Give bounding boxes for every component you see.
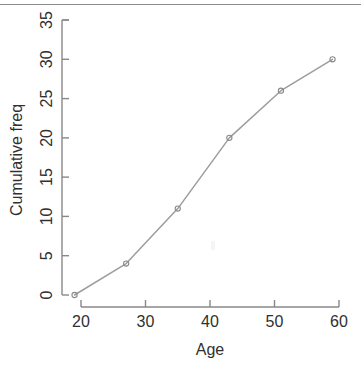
y-tick-label: 5 — [38, 251, 55, 260]
y-tick-label: 0 — [38, 290, 55, 299]
chart-page: 0 5 10 15 20 25 30 35 Cumulative freq 20… — [0, 0, 361, 374]
x-tick-label: 40 — [201, 313, 219, 330]
y-tick-label: 25 — [38, 90, 55, 108]
y-tick-label: 15 — [38, 168, 55, 186]
y-tick-labels: 0 5 10 15 20 25 30 35 — [38, 11, 55, 299]
series-markers — [72, 57, 335, 298]
x-tick-label: 60 — [330, 313, 348, 330]
cumulative-frequency-chart: 0 5 10 15 20 25 30 35 Cumulative freq 20… — [0, 0, 361, 374]
x-tick-label: 50 — [266, 313, 284, 330]
y-tick-label: 10 — [38, 207, 55, 225]
y-tick-label: 30 — [38, 50, 55, 68]
y-tick-label: 20 — [38, 129, 55, 147]
x-axis — [81, 300, 339, 307]
x-axis-title: Age — [196, 341, 225, 358]
y-axis-title: Cumulative freq — [8, 104, 25, 216]
x-tick-label: 30 — [137, 313, 155, 330]
page-bottom-text-fragment — [6, 367, 236, 374]
series-line — [75, 59, 333, 295]
x-tick-label: 20 — [72, 313, 90, 330]
y-tick-label: 35 — [38, 11, 55, 29]
x-tick-labels: 20 30 40 50 60 — [72, 313, 348, 330]
y-axis — [62, 20, 69, 295]
